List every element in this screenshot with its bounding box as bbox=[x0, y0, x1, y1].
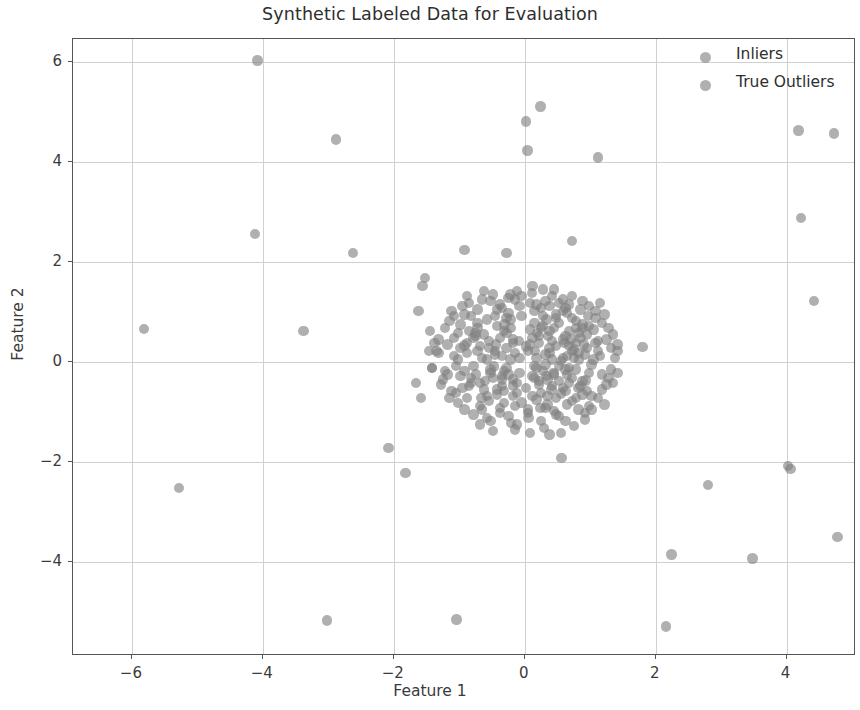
data-point bbox=[298, 326, 308, 336]
data-point bbox=[747, 553, 757, 563]
x-tick-label: 4 bbox=[756, 664, 816, 682]
data-point bbox=[425, 326, 435, 336]
data-point bbox=[139, 324, 149, 334]
data-point bbox=[540, 403, 550, 413]
data-point bbox=[484, 336, 494, 346]
y-tick-label: 4 bbox=[18, 152, 62, 170]
data-point bbox=[529, 361, 539, 371]
data-point bbox=[416, 393, 426, 403]
data-point bbox=[453, 328, 463, 338]
data-point bbox=[522, 145, 532, 155]
data-point bbox=[512, 419, 522, 429]
data-point bbox=[482, 354, 492, 364]
data-point bbox=[400, 468, 410, 478]
data-point bbox=[322, 615, 332, 625]
data-point bbox=[538, 284, 548, 294]
data-point bbox=[569, 421, 579, 431]
data-point bbox=[597, 369, 607, 379]
data-point bbox=[497, 374, 507, 384]
data-point bbox=[586, 404, 596, 414]
data-point bbox=[488, 289, 498, 299]
data-point bbox=[505, 289, 515, 299]
data-point bbox=[567, 236, 577, 246]
data-point bbox=[608, 378, 618, 388]
data-point bbox=[560, 386, 570, 396]
data-point bbox=[527, 281, 537, 291]
data-point bbox=[383, 443, 393, 453]
data-point bbox=[573, 383, 583, 393]
data-point bbox=[442, 369, 452, 379]
data-point bbox=[661, 621, 671, 631]
legend-label: True Outliers bbox=[736, 73, 835, 91]
data-point bbox=[508, 338, 518, 348]
data-point bbox=[427, 363, 437, 373]
data-point bbox=[793, 125, 803, 135]
circle-marker-icon bbox=[700, 80, 711, 91]
data-point bbox=[599, 309, 609, 319]
data-point bbox=[603, 323, 613, 333]
chart-title: Synthetic Labeled Data for Evaluation bbox=[0, 4, 860, 24]
data-point bbox=[485, 416, 495, 426]
data-point bbox=[501, 248, 511, 258]
x-tick-mark bbox=[262, 655, 263, 659]
data-point bbox=[544, 429, 554, 439]
x-tick-mark bbox=[655, 655, 656, 659]
data-point bbox=[459, 245, 469, 255]
data-point bbox=[527, 391, 537, 401]
data-point bbox=[444, 393, 454, 403]
x-tick-mark bbox=[524, 655, 525, 659]
data-point bbox=[531, 299, 541, 309]
y-tick-mark bbox=[68, 561, 72, 562]
data-point bbox=[411, 378, 421, 388]
data-point bbox=[451, 614, 461, 624]
circle-marker-icon bbox=[700, 52, 711, 63]
x-tick-label: 2 bbox=[625, 664, 685, 682]
x-tick-label: −4 bbox=[232, 664, 292, 682]
x-tick-label: −2 bbox=[363, 664, 423, 682]
x-tick-label: −6 bbox=[101, 664, 161, 682]
data-point bbox=[595, 298, 605, 308]
data-point bbox=[703, 480, 713, 490]
data-point bbox=[514, 368, 524, 378]
data-point bbox=[417, 281, 427, 291]
y-tick-mark bbox=[68, 161, 72, 162]
data-point bbox=[413, 306, 423, 316]
data-point bbox=[459, 309, 469, 319]
legend-item-inliers: Inliers bbox=[692, 44, 856, 70]
data-point bbox=[477, 294, 487, 304]
data-point bbox=[475, 419, 485, 429]
data-point bbox=[516, 311, 526, 321]
data-point bbox=[433, 348, 443, 358]
data-point bbox=[535, 101, 545, 111]
data-point bbox=[571, 323, 581, 333]
data-point bbox=[440, 323, 450, 333]
y-tick-label: −4 bbox=[18, 552, 62, 570]
data-point bbox=[575, 304, 585, 314]
y-tick-label: −2 bbox=[18, 452, 62, 470]
data-point bbox=[484, 396, 494, 406]
x-axis-label: Feature 1 bbox=[0, 682, 860, 700]
y-axis-label: Feature 2 bbox=[9, 254, 27, 394]
data-point bbox=[809, 296, 819, 306]
data-point bbox=[558, 334, 568, 344]
y-tick-mark bbox=[68, 461, 72, 462]
y-tick-label: 6 bbox=[18, 52, 62, 70]
data-point bbox=[521, 116, 531, 126]
data-point bbox=[590, 338, 600, 348]
plot-area bbox=[72, 38, 855, 655]
data-point bbox=[514, 353, 524, 363]
data-point bbox=[529, 373, 539, 383]
data-point bbox=[472, 318, 482, 328]
data-point bbox=[331, 134, 341, 144]
legend-item-true-outliers: True Outliers bbox=[692, 72, 856, 98]
data-point bbox=[796, 213, 806, 223]
data-point bbox=[666, 549, 676, 559]
data-point bbox=[832, 532, 842, 542]
data-point bbox=[544, 301, 554, 311]
data-point bbox=[462, 393, 472, 403]
x-tick-mark bbox=[393, 655, 394, 659]
data-point bbox=[785, 464, 795, 474]
data-point bbox=[510, 401, 520, 411]
x-tick-label: 0 bbox=[494, 664, 554, 682]
data-point bbox=[593, 152, 603, 162]
